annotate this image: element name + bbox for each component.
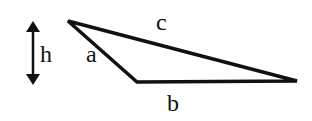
triangle-shape <box>68 21 297 82</box>
height-label: h <box>40 41 52 67</box>
side-a-label: a <box>86 41 97 67</box>
side-c-label: c <box>156 9 167 35</box>
side-b-label: b <box>167 90 179 116</box>
diagram-svg: h a c b <box>0 0 312 121</box>
height-arrow-icon <box>26 21 40 85</box>
triangle-diagram: h a c b <box>0 0 312 121</box>
